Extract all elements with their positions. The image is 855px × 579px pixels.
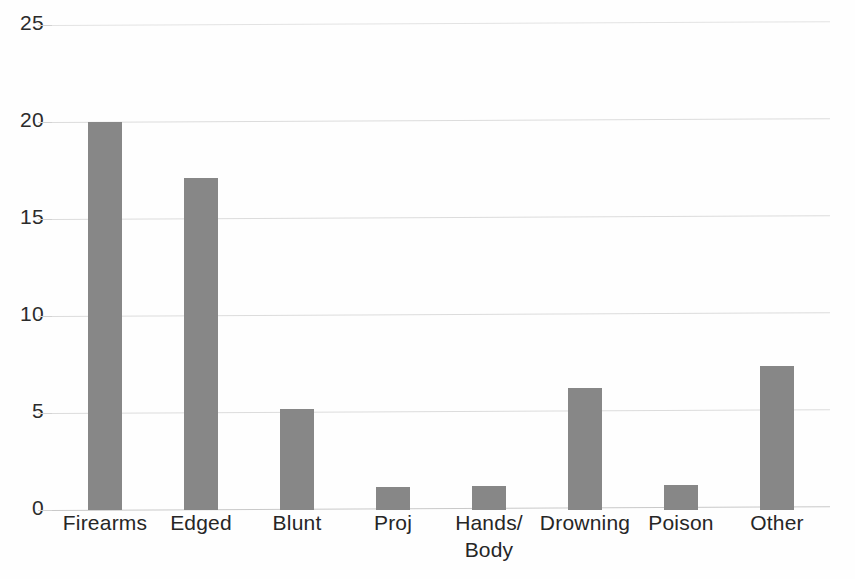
bar	[184, 178, 218, 510]
y-tick-15	[38, 219, 52, 220]
bar	[88, 122, 122, 510]
y-tick-label-15: 15	[0, 205, 44, 229]
y-tick-label-25: 25	[0, 11, 44, 35]
x-tick-label: Drowning	[537, 509, 633, 536]
y-tick-25	[38, 25, 52, 26]
x-tick-label: Other	[729, 509, 825, 536]
bar	[760, 366, 794, 510]
bar	[664, 485, 698, 510]
gridline-5	[52, 409, 830, 414]
gridline-10	[52, 312, 830, 317]
x-tick-label: Hands/ Body	[441, 509, 537, 563]
bar	[472, 486, 506, 510]
y-tick-label-10: 10	[0, 302, 44, 326]
x-axis-labels: FirearmsEdgedBluntProjHands/ BodyDrownin…	[52, 509, 830, 575]
y-tick-5	[38, 413, 52, 414]
x-tick-label: Poison	[633, 509, 729, 536]
bar	[376, 487, 410, 510]
y-tick-20	[38, 122, 52, 123]
plot-area	[52, 18, 830, 510]
y-tick-label-0: 0	[0, 496, 44, 520]
y-tick-label-20: 20	[0, 108, 44, 132]
bar	[568, 388, 602, 510]
gridline-20	[52, 118, 830, 123]
x-tick-label: Edged	[153, 509, 249, 536]
y-axis-labels: 0510152025	[0, 18, 44, 510]
gridline-25	[52, 21, 830, 26]
x-tick-label: Blunt	[249, 509, 345, 536]
x-tick-label: Proj	[345, 509, 441, 536]
y-tick-10	[38, 316, 52, 317]
bar	[280, 409, 314, 510]
bar-chart-figure: 0510152025 FirearmsEdgedBluntProjHands/ …	[0, 0, 855, 579]
gridline-15	[52, 215, 830, 220]
y-tick-0	[38, 510, 52, 511]
y-tick-label-5: 5	[0, 399, 44, 423]
x-tick-label: Firearms	[57, 509, 153, 536]
